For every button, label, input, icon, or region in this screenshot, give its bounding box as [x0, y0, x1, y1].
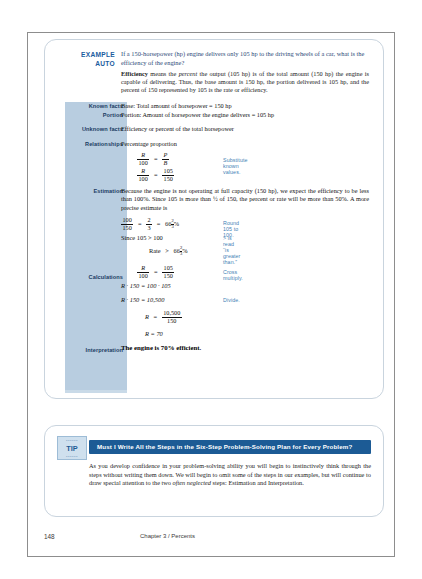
tip-badge-tick-top: •••••• — [58, 438, 86, 443]
tip-badge-icon: •••••• TIP •••••• — [57, 436, 87, 460]
example-tag-line1: EXAMPLE — [71, 51, 115, 58]
since-line: Since 105 > 100 — [121, 234, 163, 241]
portion-text: Portion: Amount of horsepower the engine… — [121, 111, 371, 119]
proportion-equation-2: R100 = 105150 — [137, 168, 174, 182]
tip-card: •••••• TIP •••••• Must I Write All the S… — [44, 425, 384, 517]
calc-line-1: R · 150 = 100 · 105 — [121, 282, 171, 289]
estimate-equation: 100150 = 23 = 6623% — [121, 217, 179, 231]
label-calculations: Calculations — [65, 274, 123, 280]
intro-bold-term: Efficiency — [121, 70, 148, 77]
unknown-facts-text: Efficiency or percent of the total horse… — [121, 125, 371, 133]
intro-italic-term: percent — [179, 70, 198, 77]
label-rail-tail — [65, 390, 127, 393]
tip-badge-word: TIP — [58, 444, 86, 453]
example-card: EXAMPLE AUTO If a 150-horsepower (hp) en… — [44, 39, 384, 399]
tip-body-italic: often neglected — [173, 479, 211, 486]
prop1-left-den: 100 — [137, 160, 149, 167]
prop1-equals: = — [151, 155, 161, 162]
relationships-text: Percentage proportion — [121, 140, 371, 148]
prop2-equals: = — [151, 171, 161, 178]
estimation-text: Because the engine is not operating at f… — [121, 187, 369, 212]
known-facts-text: Base: Total amount of horsepower = 150 h… — [121, 102, 371, 110]
page-number: 148 — [44, 533, 55, 540]
tip-body: As you develop confidence in your proble… — [89, 462, 371, 488]
chapter-label: Chapter 3 / Percents — [140, 533, 195, 539]
calc-frac-eq: = — [151, 313, 161, 320]
calc-result: R = 70 — [145, 330, 163, 337]
prop2-right-den: 150 — [162, 176, 174, 183]
rate-line: Rate > 6623% — [149, 246, 188, 256]
calc-fraction: R = 10,500150 — [145, 310, 182, 324]
calc-frac-var: R — [145, 313, 149, 320]
label-unknown-facts: Unknown facts — [65, 126, 123, 132]
label-estimation: Estimation — [65, 188, 123, 194]
tip-heading: Must I Write All the Steps in the Six-St… — [97, 443, 352, 450]
calc-left-den: 100 — [137, 273, 149, 280]
note-cross-multiply: Cross multiply. — [223, 269, 243, 281]
est-eq1: = — [135, 220, 145, 227]
label-portion: Portion — [65, 112, 123, 118]
note-substitute: Substitute known values. — [223, 157, 248, 175]
calc-frac-den: 150 — [162, 318, 182, 325]
label-interpretation: Interpretation — [65, 347, 123, 353]
tip-badge-tick-bottom: •••••• — [58, 454, 86, 459]
example-question: If a 150-horsepower (hp) engine delivers… — [121, 50, 371, 67]
prop2-left-den: 100 — [137, 176, 149, 183]
calc-proportion: R100 = 105150 — [137, 265, 174, 279]
note-divide: Divide. — [223, 297, 240, 303]
calc-right-den: 150 — [162, 273, 174, 280]
label-relationships: Relationships — [65, 141, 123, 147]
interpretation-text: The engine is 70% efficient. — [121, 344, 371, 352]
prop1-right-den: B — [162, 160, 169, 167]
rate-pct: % — [182, 247, 187, 254]
proportion-equation-1: R100 = PB — [137, 152, 169, 166]
intro-text-a: means the — [148, 70, 179, 77]
rate-gt: > — [162, 247, 172, 254]
est-eq2: = — [154, 220, 164, 227]
tip-heading-bar: Must I Write All the Steps in the Six-St… — [89, 440, 371, 454]
calc-equals: = — [151, 268, 161, 275]
est-pct: % — [174, 220, 179, 227]
est-a-den: 150 — [121, 225, 133, 232]
tip-body-b: steps: Estimation and Interpretation. — [211, 479, 304, 486]
note-greater-than: > is read “is greater than.” — [223, 235, 240, 265]
label-known-facts: Known facts — [65, 103, 123, 109]
est-b-den: 3 — [146, 225, 152, 232]
rate-label: Rate — [149, 247, 161, 254]
example-tag-line2: AUTO — [71, 60, 115, 67]
textbook-page: EXAMPLE AUTO If a 150-horsepower (hp) en… — [27, 32, 395, 557]
example-intro: Efficiency means the percent the output … — [121, 70, 369, 95]
calc-line-2: R · 150 = 10,500 — [121, 296, 164, 303]
